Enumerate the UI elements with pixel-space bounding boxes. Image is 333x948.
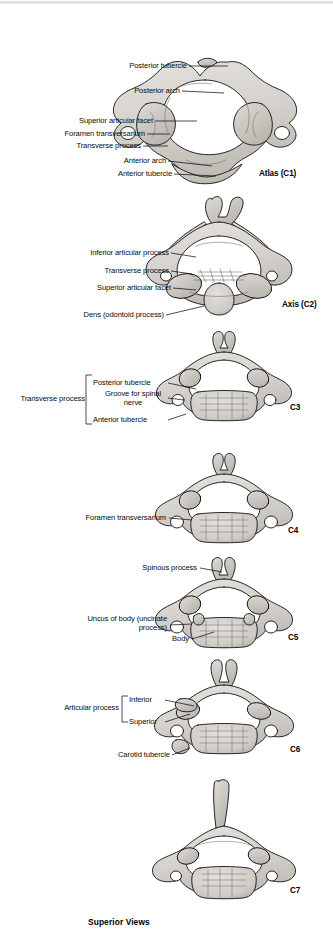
label-c1-anterior-arch: Anterior arch [25,157,166,166]
label-c2-inferior-articular-process: Inferior articular process [10,249,169,258]
label-c6-inferior: Inferior [129,696,169,705]
vertebra-tag-c7: C7 [290,886,300,895]
label-c3-groove-spinal-nerve: Groove for spinal nerve [100,390,166,407]
label-c6-carotid-tubercle: Carotid tubercle [55,751,170,760]
vertebra-tag-c6: C6 [290,745,300,754]
vertebra-tag-c1: Atlas (C1) [259,169,296,178]
vertebra-tag-c3: C3 [290,403,300,412]
plate-footer-superior-views: Superior Views [88,917,150,927]
label-c2-transverse-process: Transverse process [30,267,169,276]
label-c6-superior: Superior [129,718,169,727]
label-c3-bracket-transverse-process: Transverse process [5,395,85,404]
bone-c6 [154,660,293,754]
label-c3-anterior-tubercle: Anterior tubercle [93,416,171,425]
label-c1-transverse-process: Transverse process [5,142,141,151]
label-c1-foramen-transversarium: Foramen transversarium [5,130,145,139]
vertebra-tag-c2: Axis (C2) [282,300,317,309]
label-c1-anterior-tubercle: Anterior tubercle [25,170,172,179]
label-c5-uncus-of-body: Uncus of body (uncinate process) [60,615,167,632]
bone-c3 [156,331,291,420]
vertebra-tag-c5: C5 [288,633,298,642]
label-c5-body: Body [130,635,189,644]
label-c2-dens: Dens (odontoid process) [14,311,164,320]
label-c1-posterior-arch: Posterior arch [29,87,180,96]
label-c1-superior-articular-facet: Superior articular facet [9,117,153,126]
bone-c7 [152,780,295,899]
label-c5-spinous-process: Spinous process [75,564,197,573]
label-c1-posterior-tubercle: Posterior tubercle [29,62,187,71]
label-c3-posterior-tubercle: Posterior tubercle [93,379,171,388]
label-c4-foramen-transversarium: Foramen transversarium [20,514,166,523]
label-c2-superior-articular-facet: Superior articular facet [24,284,171,293]
label-c6-bracket-articular-process: Articular process [5,704,119,713]
bone-c4 [155,453,292,542]
vertebra-tag-c4: C4 [288,526,298,535]
anatomy-plate: Posterior tubercle Posterior arch Superi… [0,0,333,948]
